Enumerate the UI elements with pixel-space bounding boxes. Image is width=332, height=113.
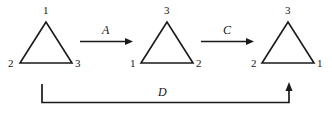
triangle-2-apex-label: 3 bbox=[164, 5, 170, 16]
arrow-c-label: C bbox=[223, 24, 231, 36]
arrow-d-head bbox=[286, 82, 293, 91]
triangle-3-bottom-left-label: 2 bbox=[251, 58, 257, 69]
arrow-a-label: A bbox=[102, 24, 109, 36]
triangle-2-shape bbox=[141, 22, 193, 63]
triangle-1-bottom-left-label: 2 bbox=[8, 58, 14, 69]
arrow-d-label: D bbox=[158, 86, 167, 98]
arrow-c-head bbox=[246, 38, 254, 45]
triangle-3-bottom-right-label: 1 bbox=[317, 58, 323, 69]
triangle-2-bottom-right-label: 2 bbox=[196, 58, 202, 69]
permutation-diagram: 1 2 3 3 1 2 3 2 1 A C D bbox=[0, 0, 332, 113]
triangle-2-bottom-left-label: 1 bbox=[130, 58, 136, 69]
triangle-1-apex-label: 1 bbox=[43, 5, 49, 16]
arrow-a-head bbox=[125, 38, 133, 45]
triangle-1-shape bbox=[20, 22, 72, 63]
triangle-1-bottom-right-label: 3 bbox=[75, 58, 81, 69]
triangle-3-apex-label: 3 bbox=[285, 5, 291, 16]
triangle-3-shape bbox=[262, 22, 314, 63]
